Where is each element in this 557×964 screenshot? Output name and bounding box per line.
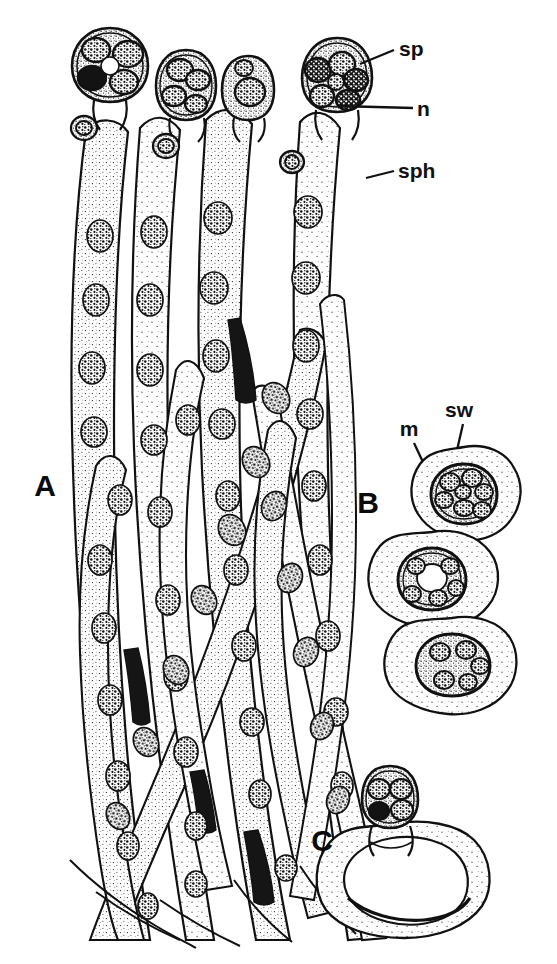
nucleus	[156, 585, 180, 615]
label-text-sw: sw	[445, 398, 474, 421]
nucleus	[174, 737, 198, 767]
spore	[369, 802, 389, 820]
label-text-sp: sp	[399, 37, 424, 60]
nucleus	[200, 272, 228, 304]
nucleus	[297, 399, 323, 429]
spore	[475, 484, 493, 500]
panel-letter-b: B	[357, 486, 379, 519]
label-text-sph: sph	[398, 159, 435, 182]
spore	[473, 502, 491, 518]
nucleus	[185, 871, 207, 897]
spore	[435, 492, 453, 508]
nucleus	[87, 220, 113, 252]
spore	[434, 671, 454, 689]
spore	[101, 57, 119, 75]
spore	[403, 586, 421, 602]
nucleus	[302, 471, 326, 501]
spore	[185, 95, 207, 113]
label-text-n: n	[417, 97, 430, 120]
spore	[391, 800, 413, 820]
nucleus	[141, 425, 167, 455]
nucleus	[292, 262, 320, 294]
amoeboid-cell	[368, 531, 498, 628]
sporangium-bud	[280, 151, 304, 173]
nucleus	[316, 621, 340, 651]
spore	[430, 643, 450, 661]
sporangium-bud	[71, 116, 97, 140]
spore	[455, 485, 471, 499]
label-text-m: m	[400, 417, 419, 440]
figure-container: A sp n sph m sw	[0, 0, 557, 964]
nucleus	[81, 417, 107, 447]
nucleus	[138, 893, 158, 919]
spore	[235, 60, 253, 76]
vacuole	[344, 837, 468, 925]
nucleus	[294, 196, 322, 228]
nucleus	[137, 284, 163, 316]
nucleus	[275, 855, 297, 881]
spore	[235, 78, 265, 106]
nucleus	[203, 340, 229, 372]
spore	[328, 74, 344, 90]
nucleus	[83, 284, 109, 316]
spore	[285, 155, 299, 169]
sporangium-bud	[153, 134, 179, 158]
nucleus	[204, 202, 232, 234]
nucleus	[98, 685, 122, 715]
nucleus	[176, 405, 200, 435]
spore	[448, 580, 464, 596]
nucleus	[92, 613, 116, 643]
nucleus	[137, 354, 163, 386]
nucleus	[308, 545, 332, 575]
nucleus	[106, 761, 130, 791]
amoeboid-cell	[411, 446, 520, 540]
spore	[459, 674, 477, 690]
scientific-illustration: A sp n sph m sw	[0, 0, 557, 964]
nucleus	[79, 352, 105, 384]
spore	[162, 86, 186, 106]
panel-letter-c: C	[311, 824, 333, 857]
nucleus	[216, 481, 240, 511]
nucleus	[209, 409, 235, 439]
nucleus	[148, 497, 172, 527]
amoeboid-cell	[384, 617, 516, 714]
spore	[407, 558, 425, 574]
nucleus	[240, 708, 264, 736]
nucleus	[293, 330, 319, 362]
spore	[344, 69, 368, 91]
panel-letter-a: A	[34, 469, 56, 502]
nucleus	[232, 631, 256, 661]
spore	[390, 779, 412, 799]
spore	[471, 658, 489, 674]
nucleus	[224, 555, 248, 585]
spore	[429, 590, 447, 606]
spore	[441, 558, 459, 574]
nucleus	[141, 216, 167, 248]
spore	[456, 641, 476, 659]
spore	[158, 139, 174, 153]
spore	[368, 779, 390, 799]
nucleus	[117, 832, 139, 860]
spore	[186, 70, 210, 90]
spore	[76, 121, 92, 135]
nucleus	[88, 545, 112, 575]
nucleus	[249, 780, 271, 808]
nucleus	[108, 485, 132, 515]
spore	[305, 58, 331, 82]
spore	[454, 500, 474, 516]
nucleus	[185, 812, 207, 840]
